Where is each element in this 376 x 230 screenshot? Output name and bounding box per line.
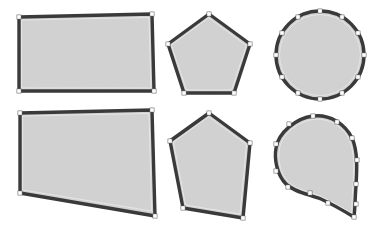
handle-point[interactable]	[181, 206, 185, 210]
handle-point[interactable]	[340, 91, 344, 95]
handle-point[interactable]	[182, 91, 186, 95]
handle-point[interactable]	[326, 201, 330, 205]
rectangle-original[interactable]	[17, 12, 156, 93]
rectangle-deformed[interactable]	[18, 108, 157, 218]
handle-point[interactable]	[352, 215, 356, 219]
handle-point[interactable]	[152, 89, 156, 93]
handle-point[interactable]	[241, 216, 245, 220]
handle-point[interactable]	[296, 15, 300, 19]
handle-point[interactable]	[153, 214, 157, 218]
handle-point[interactable]	[18, 111, 22, 115]
handle-point[interactable]	[296, 91, 300, 95]
handle-point[interactable]	[274, 53, 278, 57]
handle-point[interactable]	[308, 191, 312, 195]
circle-deformed-fill	[275, 116, 356, 217]
handle-point[interactable]	[248, 141, 252, 145]
handle-point[interactable]	[354, 202, 358, 206]
handle-point[interactable]	[17, 89, 21, 93]
handle-point[interactable]	[340, 15, 344, 19]
handle-point[interactable]	[150, 108, 154, 112]
figure-root	[0, 0, 376, 230]
circle-deformed[interactable]	[274, 114, 359, 219]
pentagon-deformed[interactable]	[168, 111, 252, 220]
handle-point[interactable]	[318, 9, 322, 13]
handle-point[interactable]	[280, 31, 284, 35]
handle-point[interactable]	[350, 136, 354, 140]
handle-point[interactable]	[362, 53, 366, 57]
handle-point[interactable]	[17, 15, 21, 19]
handle-point[interactable]	[168, 139, 172, 143]
shapes-canvas	[0, 0, 376, 230]
handle-point[interactable]	[356, 75, 360, 79]
handle-point[interactable]	[274, 169, 278, 173]
handle-point[interactable]	[207, 111, 211, 115]
original-row	[17, 9, 366, 101]
handle-point[interactable]	[207, 12, 211, 16]
handle-point[interactable]	[311, 114, 315, 118]
handle-point[interactable]	[286, 185, 290, 189]
handle-point[interactable]	[318, 97, 322, 101]
deformed-row	[18, 108, 359, 220]
circle-original[interactable]	[274, 9, 366, 101]
handle-point[interactable]	[150, 12, 154, 16]
handle-point[interactable]	[274, 142, 278, 146]
handle-point[interactable]	[232, 91, 236, 95]
handle-point[interactable]	[335, 120, 339, 124]
handle-point[interactable]	[166, 42, 170, 46]
handle-point[interactable]	[356, 31, 360, 35]
handle-point[interactable]	[354, 182, 358, 186]
rectangle-original-fill	[19, 14, 154, 91]
handle-point[interactable]	[280, 75, 284, 79]
handle-point[interactable]	[18, 191, 22, 195]
handle-point[interactable]	[287, 122, 291, 126]
handle-point[interactable]	[355, 158, 359, 162]
handle-point[interactable]	[248, 42, 252, 46]
pentagon-original[interactable]	[166, 12, 252, 95]
